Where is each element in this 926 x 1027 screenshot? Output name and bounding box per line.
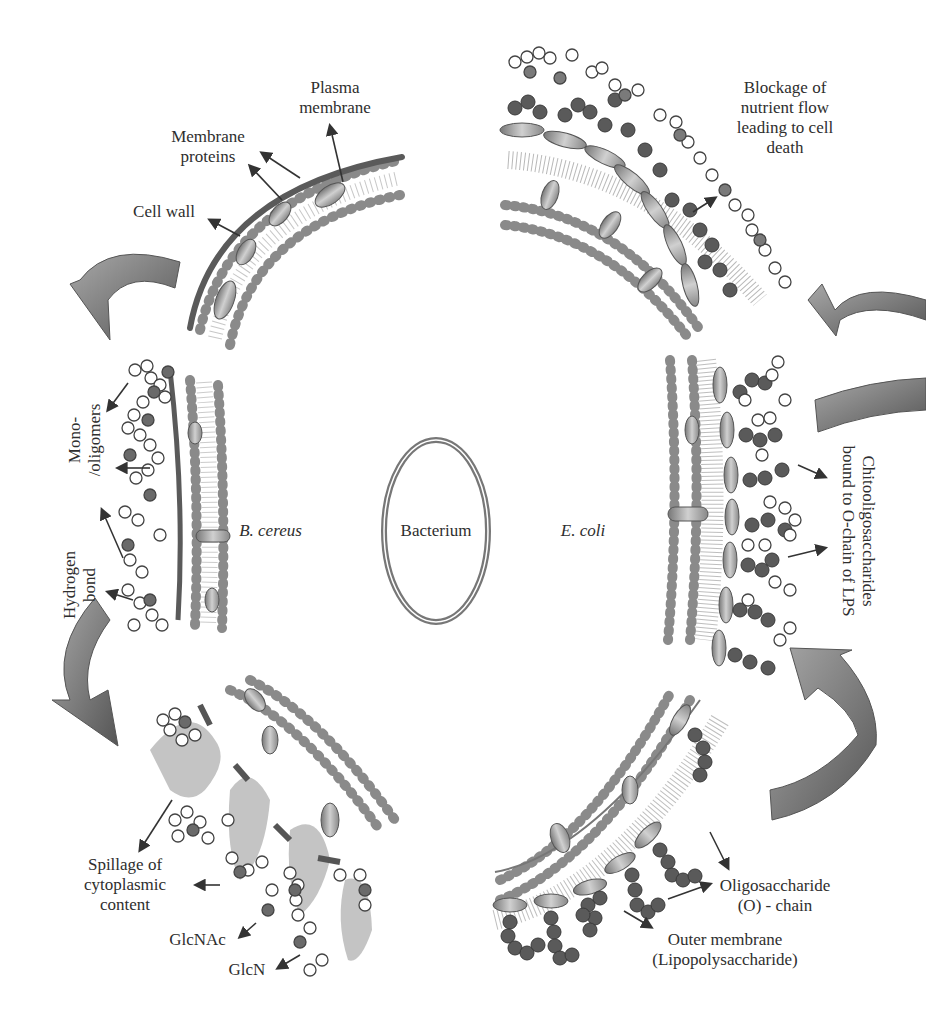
label-line: Hydrogen — [60, 535, 80, 635]
label-line: Mono- — [65, 385, 85, 495]
label-line: GlcNAc — [169, 930, 226, 949]
curved-arrow-icon — [70, 254, 180, 340]
label-line: Chitooligosaccharides — [858, 426, 878, 636]
label-line: nutrient flow — [720, 98, 850, 118]
label-line: cytoplasmic — [70, 875, 180, 895]
curved-arrow-icon — [808, 284, 926, 336]
label-membrane-proteins: Membrane proteins — [158, 127, 258, 167]
label-line: Plasma — [280, 78, 390, 98]
label-blockage: Blockage of nutrient flow leading to cel… — [720, 78, 850, 158]
label-line: bond — [80, 535, 100, 635]
label-line: proteins — [158, 147, 258, 167]
label-e-coli: E. coli — [553, 521, 613, 541]
curved-arrow-icon — [815, 378, 926, 432]
label-line: Spillage of — [70, 855, 180, 875]
gram-negative-intact-wall — [493, 690, 720, 965]
label-mono-oligomers: Mono- /oligomers — [65, 385, 105, 495]
label-chitooligosaccharides: Chitooligosaccharides bound to O-chain o… — [836, 426, 878, 636]
label-line: Cell wall — [124, 202, 204, 222]
bacterium-text: Bacterium — [401, 521, 472, 540]
label-glcnac: GlcNAc — [160, 930, 235, 950]
label-bacterium: Bacterium — [385, 521, 487, 541]
label-oligosaccharide: Oligosaccharide (O) - chain — [715, 876, 835, 916]
label-line: (Lipopolysaccharide) — [640, 950, 810, 970]
label-line: Blockage of — [720, 78, 850, 98]
label-line: GlcN — [229, 960, 266, 979]
label-outer-membrane: Outer membrane (Lipopolysaccharide) — [640, 930, 810, 970]
label-line: content — [70, 895, 180, 915]
gram-positive-chitosan-bound — [119, 360, 230, 631]
label-line: membrane — [280, 98, 390, 118]
label-cell-wall: Cell wall — [124, 202, 204, 222]
label-glcn: GlcN — [222, 960, 272, 980]
gram-positive-intact-wall — [190, 157, 402, 345]
label-line: /oligomers — [85, 385, 105, 495]
gram-negative-chito-bound — [668, 356, 801, 675]
organism-name: E. coli — [561, 521, 605, 540]
label-line: leading to cell — [720, 118, 850, 138]
organism-name: B. cereus — [239, 521, 302, 540]
label-line: (O) - chain — [715, 896, 835, 916]
label-line: Membrane — [158, 127, 258, 147]
label-hydrogen-bond: Hydrogen bond — [60, 535, 100, 635]
label-line: bound to O-chain of LPS — [838, 426, 858, 636]
label-spillage: Spillage of cytoplasmic content — [70, 855, 180, 915]
label-line: death — [720, 138, 850, 158]
label-line: Oligosaccharide — [715, 876, 835, 896]
chitosan-antibacterial-mechanism-diagram: Plasma membrane Membrane proteins Cell w… — [0, 0, 926, 1027]
curved-arrow-icon — [770, 648, 876, 820]
label-b-cereus: B. cereus — [228, 521, 313, 541]
label-line: Outer membrane — [640, 930, 810, 950]
label-plasma-membrane: Plasma membrane — [280, 78, 390, 118]
